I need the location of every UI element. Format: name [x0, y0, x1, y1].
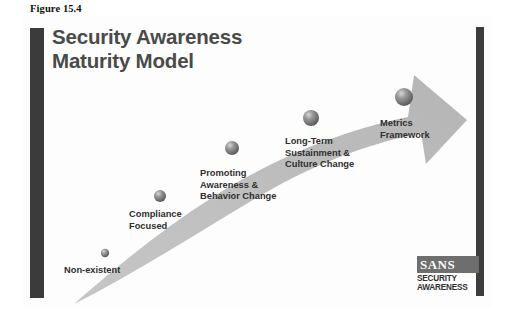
stage-label-metrics-framework: Metrics Framework [380, 118, 430, 141]
sphere-compliance [154, 190, 166, 202]
left-vertical-rule [30, 28, 44, 298]
figure-caption: Figure 15.4 [30, 3, 82, 14]
page-title: Security Awareness Maturity Model [52, 25, 352, 73]
sans-wordmark: SANS [417, 256, 479, 273]
sphere-non-existent [101, 249, 109, 257]
stage-label-long-term-sustainment: Long-Term Sustainment & Culture Change [285, 136, 354, 171]
stage-label-promoting-awareness: Promoting Awareness & Behavior Change [200, 168, 276, 203]
figure-page: Figure 15.4 [0, 0, 507, 317]
stage-label-compliance-focused: Compliance Focused [129, 209, 182, 232]
sphere-metrics [395, 88, 413, 106]
title-line-2: Maturity Model [52, 49, 352, 73]
stage-label-non-existent: Non-existent [64, 265, 120, 277]
sans-logo-subtitle: SECURITY AWARENESS [417, 273, 479, 293]
sphere-promoting [225, 141, 239, 155]
slide-image: Security Awareness Maturity Model Non-ex… [22, 17, 492, 307]
sans-logo: SANS SECURITY AWARENESS [417, 256, 479, 293]
sphere-long-term [303, 110, 319, 126]
title-line-1: Security Awareness [52, 25, 242, 48]
